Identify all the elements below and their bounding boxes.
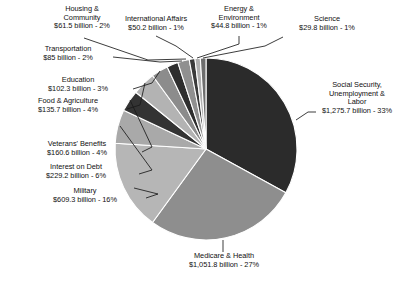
callout-veterans-benefits: Veterans' Benefits $160.6 billion - 4%: [12, 140, 142, 157]
callout-science: Science $29.8 billion - 1%: [272, 15, 382, 32]
pie-slices: [115, 58, 297, 240]
callout-interest-value: $229.2 billion - 6%: [13, 172, 139, 181]
callout-education-value: $102.3 billion - 3%: [23, 85, 133, 94]
callout-veterans-value: $160.6 billion - 4%: [12, 149, 142, 158]
callout-education: Education $102.3 billion - 3%: [23, 76, 133, 93]
callout-food-agriculture: Food & Agriculture $135.7 billion - 4%: [8, 97, 128, 114]
callout-transportation-value: $85 billion - 2%: [16, 54, 120, 63]
pie-chart-figure: Housing & Community $61.5 billion - 2% I…: [0, 0, 403, 282]
callout-food-value: $135.7 billion - 4%: [8, 106, 128, 115]
callout-medicare-value: $1,051.8 billion - 27%: [160, 261, 288, 270]
leader-line-science: [203, 37, 283, 58]
callout-socialsecurity-value: $1,275.7 billion - 33%: [312, 107, 402, 116]
callout-transportation: Transportation $85 billion - 2%: [16, 45, 120, 62]
leader-line-international: [156, 36, 193, 58]
callout-science-value: $29.8 billion - 1%: [272, 24, 382, 33]
callout-social-security: Social Security, Unemployment & Labor $1…: [312, 81, 402, 115]
callout-medicare-health: Medicare & Health $1,051.8 billion - 27%: [160, 252, 288, 269]
callout-military: Military $609.3 billion - 16%: [24, 187, 146, 204]
callout-military-value: $609.3 billion - 16%: [24, 196, 146, 205]
callout-interest-on-debt: Interest on Debt $229.2 billion - 6%: [13, 163, 139, 180]
